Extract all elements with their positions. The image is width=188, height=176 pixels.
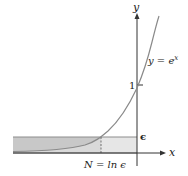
y-axis-label: y xyxy=(132,1,140,14)
epsilon-label: ϵ xyxy=(140,131,146,142)
tick-one-label: 1 xyxy=(129,80,135,91)
n-label: N = ln ϵ xyxy=(83,159,126,170)
curve-label: y = ex xyxy=(147,54,178,66)
x-axis-arrow-icon xyxy=(160,151,166,156)
x-axis-label: x xyxy=(169,146,176,159)
exp-limit-diagram: y x y = ex 1 ϵ N = ln ϵ xyxy=(0,0,188,176)
light-band xyxy=(101,137,137,153)
